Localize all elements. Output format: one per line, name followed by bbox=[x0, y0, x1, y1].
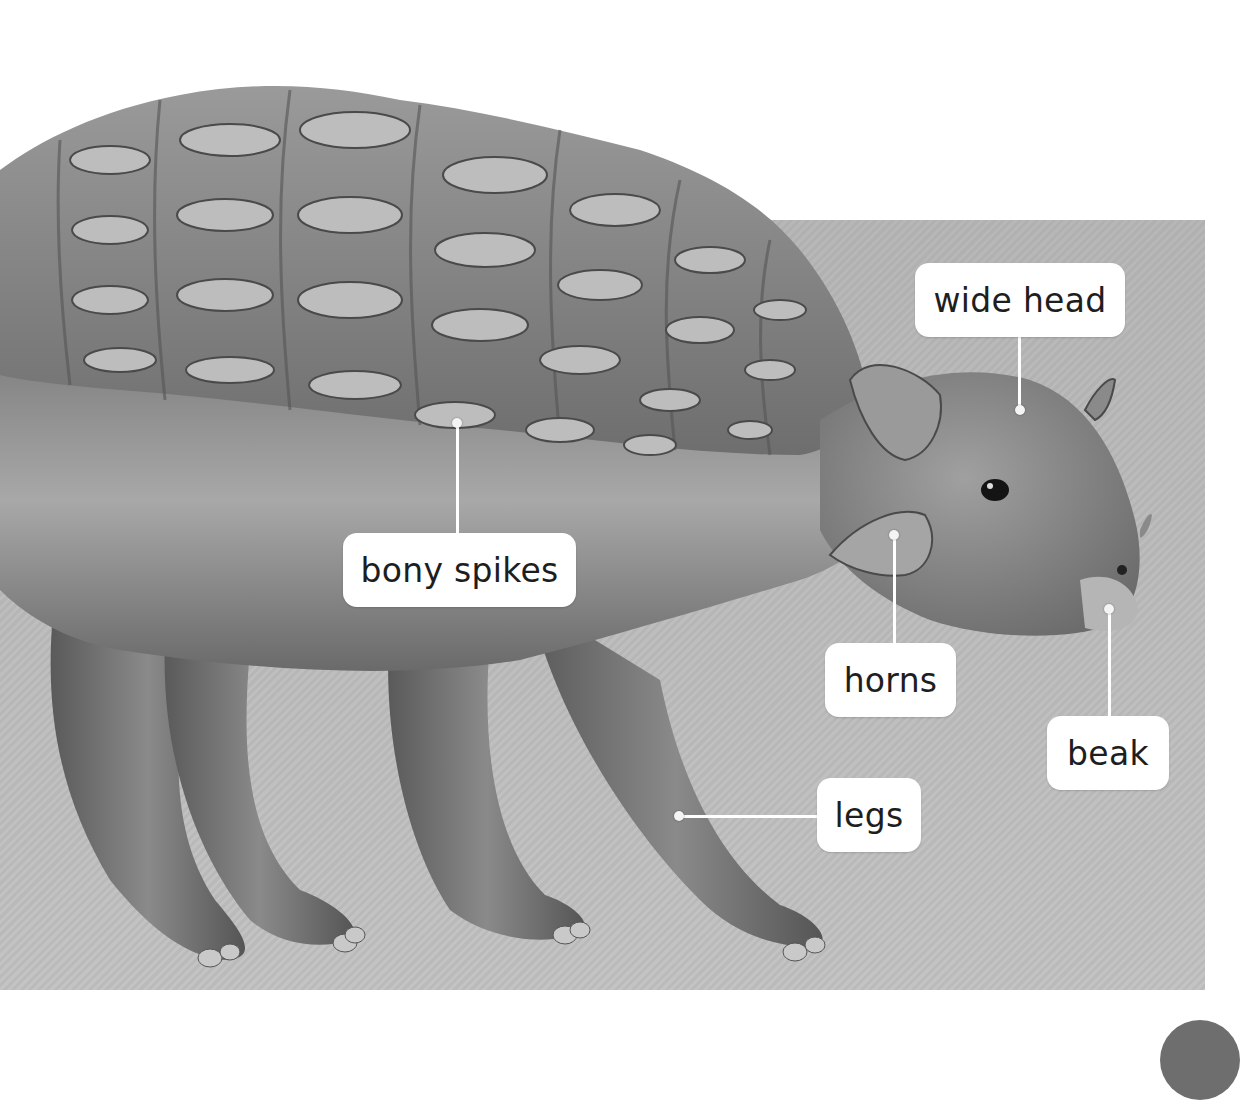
label-bony-spikes: bony spikes bbox=[343, 533, 576, 607]
pointer-dot-horns bbox=[889, 530, 899, 540]
leader-wide-head bbox=[1018, 337, 1021, 410]
pointer-dot-bony-spikes bbox=[452, 418, 462, 428]
pointer-dot-beak bbox=[1104, 604, 1114, 614]
leader-legs bbox=[680, 815, 818, 818]
leader-horns bbox=[893, 536, 896, 644]
page-corner-tab bbox=[1160, 1020, 1240, 1100]
label-beak: beak bbox=[1047, 716, 1169, 790]
label-legs: legs bbox=[817, 778, 921, 852]
label-wide-head: wide head bbox=[915, 263, 1125, 337]
label-horns: horns bbox=[825, 643, 956, 717]
pointer-dot-legs bbox=[674, 811, 684, 821]
leader-beak bbox=[1108, 610, 1111, 718]
pointer-dot-wide-head bbox=[1015, 405, 1025, 415]
leader-bony-spikes bbox=[456, 425, 459, 533]
